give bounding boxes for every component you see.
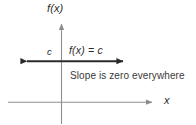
x-axis-label: x <box>164 95 170 106</box>
constant-value-label: c <box>47 47 52 57</box>
constant-function-figure: f(x) x c f(x) = c Slope is zero everywhe… <box>0 0 196 125</box>
equation-label: f(x) = c <box>69 45 103 56</box>
slope-note-label: Slope is zero everywhere <box>70 71 185 81</box>
graph-canvas <box>0 0 196 125</box>
y-axis-label: f(x) <box>47 3 63 14</box>
